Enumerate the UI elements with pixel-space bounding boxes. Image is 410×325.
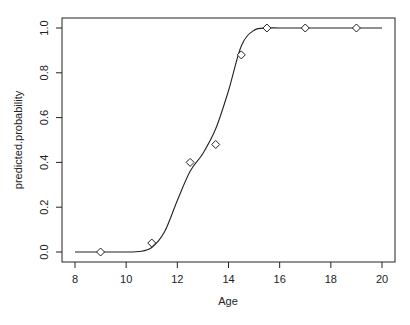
x-tick-label: 8 xyxy=(72,273,78,285)
x-tick-label: 12 xyxy=(171,273,183,285)
y-axis-title: predicted.probability xyxy=(12,90,24,189)
x-tick-label: 14 xyxy=(222,273,234,285)
data-point-diamond xyxy=(263,24,271,32)
fitted-curve xyxy=(75,28,382,252)
data-point-diamond xyxy=(212,140,220,148)
y-axis: 0.00.20.40.60.81.0 xyxy=(38,20,62,259)
y-tick-label: 0.0 xyxy=(38,244,50,259)
data-point-diamond xyxy=(97,248,105,256)
plot-frame xyxy=(62,18,395,262)
x-axis-title: Age xyxy=(218,295,238,307)
x-tick-label: 18 xyxy=(325,273,337,285)
data-points xyxy=(97,24,361,256)
x-tick-label: 16 xyxy=(274,273,286,285)
x-axis: 8101214161820 xyxy=(72,262,388,285)
data-point-diamond xyxy=(237,51,245,59)
x-tick-label: 10 xyxy=(120,273,132,285)
y-tick-label: 0.2 xyxy=(38,200,50,215)
y-tick-label: 0.8 xyxy=(38,65,50,80)
y-tick-label: 1.0 xyxy=(38,20,50,35)
data-point-diamond xyxy=(301,24,309,32)
y-tick-label: 0.4 xyxy=(38,155,50,170)
x-tick-label: 20 xyxy=(376,273,388,285)
data-point-diamond xyxy=(186,158,194,166)
y-tick-label: 0.6 xyxy=(38,110,50,125)
data-point-diamond xyxy=(352,24,360,32)
chart: 8101214161820 0.00.20.40.60.81.0 Age pre… xyxy=(0,0,410,325)
